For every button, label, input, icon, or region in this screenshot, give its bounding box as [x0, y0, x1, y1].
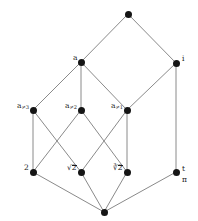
lattice-node-sqrt2 — [78, 169, 85, 176]
lattice-node-cbrt2 — [124, 169, 131, 176]
lattice-edge — [33, 172, 104, 212]
lattice-node-tpi — [173, 169, 180, 176]
node-label-aneq3: a≠3 — [17, 102, 29, 110]
lattice-node-aneq3 — [30, 107, 37, 114]
node-label-aneq2: a≠2 — [65, 102, 77, 110]
lattice-node-bottom — [101, 209, 108, 216]
node-label-a: a — [73, 54, 77, 62]
node-label-cbrt2: ∛2 — [113, 164, 123, 172]
lattice-edge — [128, 14, 176, 63]
node-label-two: 2 — [24, 164, 29, 172]
node-label-tpi-lower: π — [182, 176, 187, 184]
lattice-diagram: aia≠3a≠2a≠12√2∛2tπ — [0, 0, 198, 221]
node-label-tpi-upper: t — [182, 165, 185, 173]
node-label-i: i — [182, 55, 184, 63]
lattice-edge — [81, 14, 128, 62]
lattice-edge — [127, 63, 176, 110]
lattice-node-aneq1 — [124, 107, 131, 114]
lattice-edge — [104, 172, 176, 212]
lattice-node-a — [78, 59, 85, 66]
lattice-node-top — [125, 11, 132, 18]
node-label-aneq1: a≠1 — [111, 102, 123, 110]
lattice-node-two — [30, 169, 37, 176]
lattice-node-aneq2 — [78, 107, 85, 114]
node-label-sqrt2: √2 — [67, 164, 77, 172]
lattice-node-i — [173, 60, 180, 67]
